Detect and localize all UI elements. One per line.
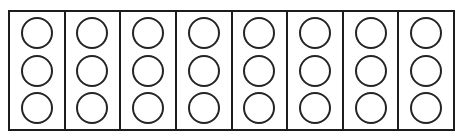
circle-counter[interactable] [355,17,387,49]
circle-counter[interactable] [132,17,164,49]
grid-column[interactable] [10,12,66,129]
grid-column[interactable] [288,12,344,129]
grid-column[interactable] [399,12,453,129]
circle-counter[interactable] [76,92,108,124]
circle-counter[interactable] [21,55,53,87]
circle-counter[interactable] [76,55,108,87]
circle-counter[interactable] [243,17,275,49]
circle-counter[interactable] [188,55,220,87]
circle-counter[interactable] [410,17,442,49]
circle-counter[interactable] [21,92,53,124]
counting-grid-frame [8,10,455,131]
circle-counter[interactable] [132,55,164,87]
circle-counter[interactable] [188,17,220,49]
grid-column[interactable] [233,12,289,129]
circle-counter[interactable] [299,17,331,49]
circle-counter[interactable] [21,17,53,49]
circle-counter[interactable] [355,55,387,87]
circle-counter[interactable] [132,92,164,124]
circle-counter[interactable] [410,55,442,87]
circle-counter[interactable] [299,55,331,87]
grid-column[interactable] [344,12,400,129]
circle-counter[interactable] [188,92,220,124]
circle-counter[interactable] [410,92,442,124]
circle-counter[interactable] [243,55,275,87]
circle-counter[interactable] [76,17,108,49]
circle-counter[interactable] [355,92,387,124]
circle-counter[interactable] [243,92,275,124]
grid-column[interactable] [177,12,233,129]
circle-counter[interactable] [299,92,331,124]
figure-canvas [0,0,463,139]
grid-column[interactable] [121,12,177,129]
grid-column[interactable] [66,12,122,129]
